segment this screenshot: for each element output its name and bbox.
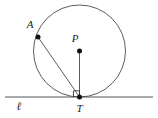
label-point-a: A bbox=[26, 18, 34, 30]
geometry-canvas: A P T ℓ bbox=[0, 0, 158, 118]
chord-a-to-t bbox=[38, 37, 80, 97]
label-point-t: T bbox=[76, 102, 83, 114]
point-t-dot bbox=[77, 95, 82, 100]
label-line-l: ℓ bbox=[17, 100, 22, 112]
point-a-dot bbox=[36, 35, 41, 40]
label-point-p: P bbox=[71, 32, 79, 44]
point-p-dot bbox=[77, 49, 82, 54]
geometry-figure: A P T ℓ bbox=[0, 0, 158, 118]
